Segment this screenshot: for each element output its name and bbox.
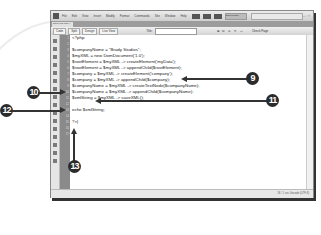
callout-12-line bbox=[12, 110, 60, 112]
callout-10-arrowhead bbox=[60, 89, 66, 95]
callout-10-line bbox=[38, 92, 60, 94]
split-view-button[interactable]: Split bbox=[68, 28, 80, 35]
callout-12-arrowhead bbox=[60, 107, 66, 113]
collapse-icon[interactable] bbox=[53, 47, 57, 51]
menu-commands[interactable]: Commands bbox=[134, 14, 149, 18]
toolbar-icons[interactable]: ⊞ ⊡ ⊙ ↻ ▭ bbox=[217, 29, 244, 33]
status-bar: 1K / 1 sec Unicode (UTF-8) bbox=[51, 189, 313, 198]
callout-11: 11 bbox=[266, 94, 279, 107]
callout-13: 13 bbox=[68, 160, 81, 173]
highlight-invalid-icon[interactable] bbox=[53, 87, 57, 91]
snippets-icon[interactable] bbox=[53, 127, 57, 131]
app-logo-icon bbox=[53, 13, 59, 19]
vertical-scrollbar[interactable] bbox=[306, 35, 313, 189]
menu-insert[interactable]: Insert bbox=[93, 14, 101, 18]
design-view-button[interactable]: Design bbox=[82, 28, 97, 35]
outdent-icon[interactable] bbox=[53, 151, 57, 155]
layout-icon[interactable] bbox=[192, 14, 200, 19]
title-input[interactable] bbox=[155, 28, 197, 35]
title-label: Title: bbox=[146, 29, 152, 33]
line-numbers-icon[interactable] bbox=[53, 79, 57, 83]
check-page-button[interactable]: Check Page bbox=[252, 29, 268, 33]
status-text: 1K / 1 sec Unicode (UTF-8) bbox=[277, 192, 309, 195]
syntax-error-icon[interactable] bbox=[53, 95, 57, 99]
callout-9-line bbox=[186, 78, 248, 80]
window-controls[interactable]: – □ × bbox=[303, 14, 310, 18]
indent-icon[interactable] bbox=[53, 143, 57, 147]
menu-help[interactable]: Help bbox=[181, 14, 187, 18]
menu-edit[interactable]: Edit bbox=[72, 14, 77, 18]
menu-window[interactable]: Window bbox=[165, 14, 176, 18]
extend-icon[interactable] bbox=[203, 14, 211, 19]
callout-9: 9 bbox=[246, 72, 259, 85]
coding-toolbar bbox=[51, 35, 60, 189]
code-view-button[interactable]: Code bbox=[53, 28, 66, 35]
workspace-switcher[interactable]: DESIGNER bbox=[225, 13, 247, 20]
document-toolbar: Code Split Design Live View Title: ⊞ ⊡ ⊙… bbox=[51, 27, 313, 35]
open-documents-icon[interactable] bbox=[53, 39, 57, 43]
code-line: ?>| bbox=[70, 119, 306, 125]
expand-icon[interactable] bbox=[53, 55, 57, 59]
code-editor[interactable]: <?php$companyName = "Brady Studios";$myX… bbox=[70, 35, 306, 189]
wrap-tag-icon[interactable] bbox=[53, 119, 57, 123]
menu-view[interactable]: View bbox=[82, 14, 88, 18]
site-icon[interactable] bbox=[214, 14, 222, 19]
menu-bar: File Edit View Insert Modify Format Comm… bbox=[51, 11, 313, 21]
callout-13-line bbox=[73, 133, 75, 163]
menu-site[interactable]: Site bbox=[155, 14, 160, 18]
menu-modify[interactable]: Modify bbox=[106, 14, 115, 18]
select-parent-icon[interactable] bbox=[53, 63, 57, 67]
menu-format[interactable]: Format bbox=[120, 14, 130, 18]
callout-11-line bbox=[100, 100, 268, 102]
line-number: 17 bbox=[60, 131, 70, 137]
menu-file[interactable]: File bbox=[62, 14, 67, 18]
move-css-icon[interactable] bbox=[53, 135, 57, 139]
balance-braces-icon[interactable] bbox=[53, 71, 57, 75]
live-view-button[interactable]: Live View bbox=[99, 28, 118, 35]
help-search-input[interactable] bbox=[251, 13, 303, 20]
format-source-icon[interactable] bbox=[53, 159, 57, 163]
comment-icon[interactable] bbox=[53, 103, 57, 107]
